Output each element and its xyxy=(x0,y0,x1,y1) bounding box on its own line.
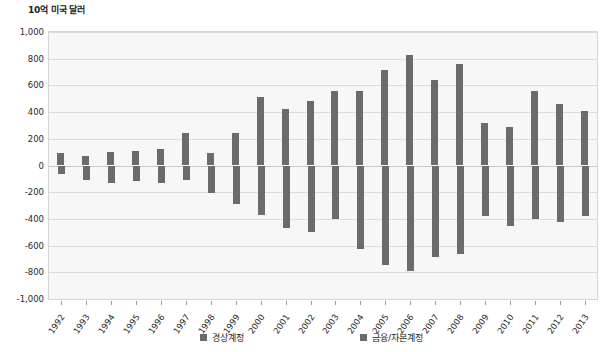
bar xyxy=(531,91,538,166)
chart-legend: 경상계정금융/자본계정 xyxy=(0,331,606,349)
legend-swatch-icon xyxy=(360,334,367,341)
x-axis-tick xyxy=(111,301,112,305)
bar xyxy=(331,91,338,166)
bar xyxy=(357,166,364,249)
gridline xyxy=(49,246,597,247)
bar xyxy=(481,123,488,166)
x-axis-tick xyxy=(136,301,137,305)
legend-swatch-icon xyxy=(200,334,207,341)
bar xyxy=(382,166,389,265)
x-axis-tick xyxy=(61,301,62,305)
bar xyxy=(232,133,239,165)
x-axis-tick xyxy=(311,301,312,305)
y-axis-tick-label: 800 xyxy=(2,54,44,64)
bar xyxy=(157,149,164,165)
bar xyxy=(581,111,588,165)
x-axis-tick xyxy=(161,301,162,305)
bar xyxy=(532,166,539,219)
x-axis-tick xyxy=(360,301,361,305)
x-axis-tick xyxy=(86,301,87,305)
bar xyxy=(132,151,139,166)
y-axis-unit-title: 10억 미국 달러 xyxy=(28,3,85,16)
bar xyxy=(107,152,114,165)
bar xyxy=(283,166,290,228)
bar xyxy=(58,166,65,174)
x-axis-tick xyxy=(435,301,436,305)
bar xyxy=(332,166,339,219)
x-axis-tick xyxy=(236,301,237,305)
bar xyxy=(308,166,315,233)
bar xyxy=(457,166,464,254)
x-axis-tick xyxy=(335,301,336,305)
y-axis-tick-label: -800 xyxy=(2,267,44,277)
bar xyxy=(208,166,215,193)
bar xyxy=(456,64,463,165)
bar xyxy=(557,166,564,222)
bar xyxy=(506,127,513,165)
y-axis-tick-label: 1,000 xyxy=(2,27,44,37)
plot-inner xyxy=(49,32,597,299)
gridline xyxy=(49,85,597,86)
bar xyxy=(57,153,64,165)
gridline xyxy=(49,192,597,193)
legend-item[interactable]: 경상계정 xyxy=(200,331,244,344)
bar xyxy=(307,101,314,165)
y-axis-tick-label: -600 xyxy=(2,241,44,251)
x-axis-tick xyxy=(211,301,212,305)
x-axis-tick xyxy=(535,301,536,305)
y-axis-tick-label: -1,000 xyxy=(2,294,44,304)
bar xyxy=(82,156,89,165)
gridline-zero xyxy=(49,166,597,167)
y-axis-labels: 1,0008006004002000-200-400-600-800-1,000 xyxy=(0,31,44,300)
bar xyxy=(207,153,214,165)
x-axis-tick xyxy=(385,301,386,305)
bar xyxy=(356,91,363,166)
x-axis-tick xyxy=(410,301,411,305)
x-axis-tick xyxy=(460,301,461,305)
gridline xyxy=(49,219,597,220)
bar xyxy=(83,166,90,181)
bar xyxy=(432,166,439,257)
bar xyxy=(407,166,414,271)
bar xyxy=(182,133,189,165)
gridline xyxy=(49,299,597,300)
bar-chart: 10억 미국 달러 1,0008006004002000-200-400-600… xyxy=(0,0,606,352)
bar xyxy=(406,55,413,165)
legend-item[interactable]: 금융/자본계정 xyxy=(360,331,423,344)
gridline xyxy=(49,59,597,60)
y-axis-tick-label: 0 xyxy=(2,161,44,171)
bar xyxy=(556,104,563,165)
bar xyxy=(282,109,289,165)
bar xyxy=(258,166,265,215)
bar xyxy=(582,166,589,216)
bar xyxy=(431,80,438,165)
x-axis-tick xyxy=(585,301,586,305)
gridline xyxy=(49,112,597,113)
y-axis-tick-label: -400 xyxy=(2,214,44,224)
x-axis-tick xyxy=(560,301,561,305)
bar xyxy=(108,166,115,183)
x-axis-tick xyxy=(485,301,486,305)
bar xyxy=(482,166,489,216)
gridline xyxy=(49,272,597,273)
bar xyxy=(507,166,514,226)
x-axis-tick xyxy=(261,301,262,305)
y-axis-tick-label: 400 xyxy=(2,107,44,117)
x-axis-tick xyxy=(286,301,287,305)
legend-label: 금융/자본계정 xyxy=(372,331,423,344)
legend-label: 경상계정 xyxy=(212,331,244,344)
bar xyxy=(257,97,264,165)
bar xyxy=(183,166,190,181)
y-axis-tick-label: 600 xyxy=(2,80,44,90)
y-axis-tick-label: 200 xyxy=(2,134,44,144)
y-axis-tick-label: -200 xyxy=(2,187,44,197)
x-axis-tick xyxy=(510,301,511,305)
plot-area xyxy=(48,31,598,300)
gridline xyxy=(49,139,597,140)
x-axis-tick xyxy=(186,301,187,305)
bar xyxy=(133,166,140,181)
bar xyxy=(233,166,240,205)
bar xyxy=(158,166,165,183)
gridline xyxy=(49,32,597,33)
bar xyxy=(381,70,388,165)
